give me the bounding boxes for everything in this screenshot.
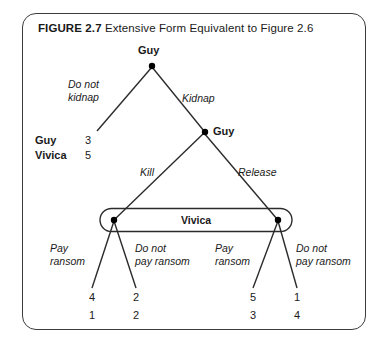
payoff-legend-player2-value: 5 (81, 149, 95, 161)
terminal-payoff-1-vivica: 1 (85, 309, 99, 321)
action-label-do-not-pay-ransom-right-line1: Do not (296, 242, 351, 255)
node-label-root-guy: Guy (138, 44, 159, 56)
information-set-label: Vivica (181, 214, 211, 226)
action-label-do-not-pay-ransom-right: Do not pay ransom (296, 242, 351, 267)
action-label-do-not-kidnap-line2: kidnap (68, 91, 99, 104)
action-label-pay-ransom-left-line1: Pay (50, 242, 85, 255)
payoff-legend-player1-value: 3 (81, 134, 95, 146)
action-label-pay-ransom-right: Pay ransom (215, 242, 250, 267)
action-label-release: Release (238, 166, 277, 179)
terminal-payoff-3-vivica: 3 (246, 309, 260, 321)
terminal-payoff-4-guy: 1 (290, 291, 304, 303)
node-vivica-left (111, 217, 117, 223)
action-label-do-not-pay-ransom-left: Do not pay ransom (135, 242, 190, 267)
action-label-pay-ransom-left: Pay ransom (50, 242, 85, 267)
payoff-legend-player1-name: Guy (35, 134, 56, 146)
node-label-guy-second: Guy (213, 125, 234, 137)
terminal-payoff-3-guy: 5 (246, 291, 260, 303)
action-label-do-not-kidnap: Do not kidnap (68, 78, 99, 103)
action-label-pay-ransom-right-line2: ransom (215, 255, 250, 268)
node-guy-second (202, 129, 208, 135)
terminal-payoff-2-vivica: 2 (129, 309, 143, 321)
action-label-do-not-pay-ransom-right-line2: pay ransom (296, 255, 351, 268)
payoff-legend-player2-name: Vivica (35, 149, 67, 161)
edge-do-not-pay-right (278, 221, 297, 288)
node-root-guy (149, 63, 155, 69)
action-label-kidnap: Kidnap (182, 92, 215, 105)
action-label-pay-ransom-left-line2: ransom (50, 255, 85, 268)
node-vivica-right (275, 217, 281, 223)
terminal-payoff-1-guy: 4 (85, 291, 99, 303)
action-label-do-not-pay-ransom-left-line1: Do not (135, 242, 190, 255)
action-label-do-not-kidnap-line1: Do not (68, 78, 99, 91)
edge-kill (115, 133, 204, 219)
action-label-do-not-pay-ransom-left-line2: pay ransom (135, 255, 190, 268)
terminal-payoff-2-guy: 2 (129, 291, 143, 303)
terminal-payoff-4-vivica: 4 (290, 309, 304, 321)
edge-do-not-kidnap (97, 67, 152, 131)
edge-pay-ransom-left (92, 221, 114, 288)
game-tree-canvas: Vivica (0, 0, 387, 349)
action-label-pay-ransom-right-line1: Pay (215, 242, 250, 255)
figure-container: FIGURE 2.7 Extensive Form Equivalent to … (0, 0, 387, 349)
action-label-kill: Kill (140, 166, 154, 179)
